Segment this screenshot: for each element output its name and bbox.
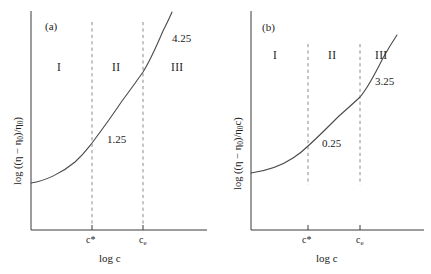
panel-a-region-II: II: [112, 62, 120, 74]
panel-b-y-axis-title: log ((η − η0)/η0c): [233, 117, 244, 190]
panel-a-tag: (a): [45, 21, 57, 32]
panel-b-x-axis-title: log c: [316, 253, 338, 264]
panel-a-y-axis-title: log ((η − η0)/η0): [13, 117, 24, 185]
panel-a-slope-region-III: 4.25: [172, 33, 191, 44]
panel-a: (a) I II III 1.25 4.25 c* ce log c log (…: [0, 0, 215, 274]
panel-a-xtick-label-ce: ce: [139, 235, 147, 245]
panel-b-slope-region-III: 3.25: [375, 76, 394, 87]
panel-a-curve: [31, 12, 172, 183]
panel-a-x-axis-title: log c: [99, 253, 121, 264]
panel-b-xtick-label-cstar: c*: [302, 235, 311, 245]
panel-b-tag: (b): [262, 22, 275, 33]
panel-a-region-III: III: [171, 62, 183, 74]
panel-a-region-I: I: [57, 62, 61, 74]
panel-b-slope-region-II: 0.25: [322, 138, 341, 149]
panel-a-slope-region-II: 1.25: [107, 134, 126, 145]
panel-b-region-I: I: [273, 50, 277, 62]
panel-a-xtick-label-cstar: c*: [86, 235, 95, 245]
panel-b: (b) I II III 0.25 3.25 c* ce log c log (…: [215, 0, 430, 274]
panel-b-region-II: II: [328, 50, 336, 62]
panel-b-region-III: III: [375, 50, 387, 62]
panel-b-xtick-label-ce: ce: [356, 235, 364, 245]
figure-container: (a) I II III 1.25 4.25 c* ce log c log (…: [0, 0, 431, 274]
